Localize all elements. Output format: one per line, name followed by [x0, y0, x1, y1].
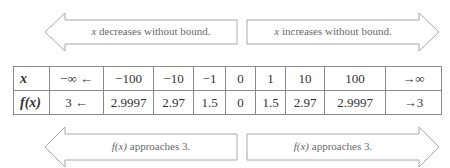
row-header-fx: f(x)	[14, 91, 50, 115]
fx-approaches-left-label: f(x) approaches 3.	[65, 140, 237, 152]
table-cell: −1	[194, 67, 226, 91]
table-cell: 1.5	[194, 91, 226, 115]
table-cell: 100	[325, 67, 386, 91]
label-text: decreases without bound.	[96, 25, 210, 37]
table-cell: 0	[226, 91, 256, 115]
values-table: x −∞ ← −100 −10 −1 0 1 10 100 →∞ f(x) 3 …	[13, 66, 442, 115]
variable-fx: f(x)	[294, 140, 309, 152]
table-cell: −∞ ←	[50, 67, 104, 91]
x-decreases-label: x decreases without bound.	[65, 25, 237, 37]
table-cell: 2.97	[154, 91, 194, 115]
table-cell: 3 ←	[50, 91, 104, 115]
table-row-fx: f(x) 3 ← 2.9997 2.97 1.5 0 1.5 2.97 2.99…	[14, 91, 442, 115]
table-cell: 2.9997	[104, 91, 154, 115]
variable-fx: f(x)	[112, 140, 127, 152]
x-increases-label: x increases without bound.	[247, 25, 419, 37]
row-header-x: x	[14, 67, 50, 91]
table-cell: 10	[286, 67, 325, 91]
table-cell: →3	[386, 91, 442, 115]
label-text: increases without bound.	[279, 25, 391, 37]
table-cell: 2.97	[286, 91, 325, 115]
label-text: approaches 3.	[127, 140, 190, 152]
table-row-x: x −∞ ← −100 −10 −1 0 1 10 100 →∞	[14, 67, 442, 91]
table-cell: 0	[226, 67, 256, 91]
table-cell: −10	[154, 67, 194, 91]
fx-approaches-right-label: f(x) approaches 3.	[247, 140, 419, 152]
table-cell: →∞	[386, 67, 442, 91]
table-cell: −100	[104, 67, 154, 91]
label-text: approaches 3.	[309, 140, 372, 152]
table-cell: 1.5	[256, 91, 286, 115]
table-cell: 2.9997	[325, 91, 386, 115]
table-cell: 1	[256, 67, 286, 91]
